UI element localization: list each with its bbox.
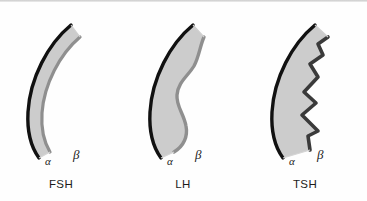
lh-beta-label: β: [195, 148, 201, 161]
hormone-subunit-diagram: α β FSH α β LH α β TSH: [0, 0, 367, 201]
tsh-hormone-label: TSH: [244, 178, 366, 190]
tsh-shape: [244, 0, 366, 201]
lh-shape: [122, 0, 244, 201]
tsh-beta-label: β: [317, 148, 323, 161]
lh-hormone-label: LH: [122, 178, 244, 190]
fsh-shape: [0, 0, 122, 201]
panel-lh: α β LH: [122, 0, 244, 201]
fsh-beta-label: β: [73, 148, 79, 161]
panel-fsh: α β FSH: [0, 0, 122, 201]
fsh-hormone-label: FSH: [0, 178, 122, 190]
tsh-alpha-label: α: [289, 156, 295, 167]
lh-alpha-label: α: [167, 156, 173, 167]
panel-tsh: α β TSH: [244, 0, 366, 201]
fsh-alpha-label: α: [45, 156, 51, 167]
